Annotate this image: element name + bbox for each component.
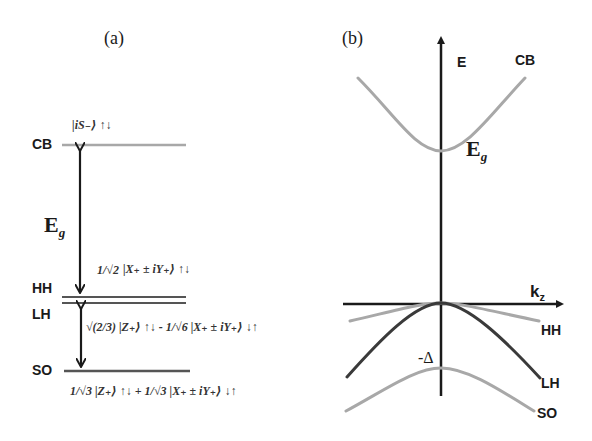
lh-coefficient-2: 1/√6	[166, 320, 188, 334]
panel-b-axes	[343, 40, 560, 396]
hh-state-label: 1/√2 |X₊ ± iY₊⟩ ↑↓	[96, 262, 190, 277]
cb-band-label: CB	[515, 52, 535, 68]
gap-label-sub: g	[481, 149, 488, 164]
panel-b-label: (b)	[342, 28, 363, 49]
so-coefficient-2: 1/√3	[145, 384, 167, 398]
lh-separator: -	[159, 320, 163, 334]
so-state-label: 1/√3 |Z₊⟩ ↑↓ + 1/√3 |X₊ ± iY₊⟩ ↓↑	[70, 384, 237, 399]
so-coefficient-1: 1/√3	[70, 384, 92, 398]
cb-state-text: |iS₋⟩ ↑↓	[72, 118, 111, 132]
hh-level-label: HH	[32, 280, 52, 296]
so-band-label: SO	[537, 405, 557, 421]
gap-label-e: E	[466, 136, 481, 161]
so-state-1: |Z₊⟩ ↑↓	[95, 384, 132, 398]
hh-band-label: HH	[541, 322, 561, 338]
panel-a-levels	[62, 145, 190, 371]
so-separator: +	[135, 384, 142, 398]
hh-band-curve	[350, 303, 539, 321]
panel-b-bands	[346, 78, 540, 411]
lh-state-1: |Z₊⟩ ↑↓	[119, 320, 156, 334]
panel-a-gap-label: Eg	[44, 212, 65, 241]
band-structure-figure: (a) |iS₋⟩ ↑↓ CB HH LH SO Eg 1/√2 |X₊ ± i…	[0, 0, 592, 441]
lh-state-label: √(2/3) |Z₊⟩ ↑↓ - 1/√6 |X₊ ± iY₊⟩ ↓↑	[86, 320, 258, 335]
lh-level-label: LH	[32, 306, 51, 322]
cb-state-label: |iS₋⟩ ↑↓	[72, 118, 111, 133]
split-off-energy-label: -Δ	[418, 349, 434, 367]
hh-state-text: |X₊ ± iY₊⟩ ↑↓	[123, 262, 190, 276]
hh-coefficient: 1/√2	[97, 264, 119, 276]
lh-band-label: LH	[541, 375, 560, 391]
lh-coefficient-1: √(2/3)	[86, 320, 116, 334]
cb-level-label: CB	[32, 136, 52, 152]
so-level-label: SO	[32, 362, 52, 378]
so-state-2: |X₊ ± iY₊⟩ ↓↑	[169, 384, 236, 398]
diagram-graphics	[0, 0, 592, 441]
lh-state-2: |X₊ ± iY₊⟩ ↓↑	[191, 320, 258, 334]
gap-label-sub: g	[59, 225, 66, 240]
gap-label-e: E	[44, 212, 59, 237]
kz-axis-sub: z	[539, 291, 545, 303]
energy-axis-label: E	[457, 54, 466, 70]
panel-a-label: (a)	[104, 28, 124, 49]
kz-axis-label: kz	[530, 282, 545, 303]
panel-b-gap-label: Eg	[466, 136, 487, 165]
